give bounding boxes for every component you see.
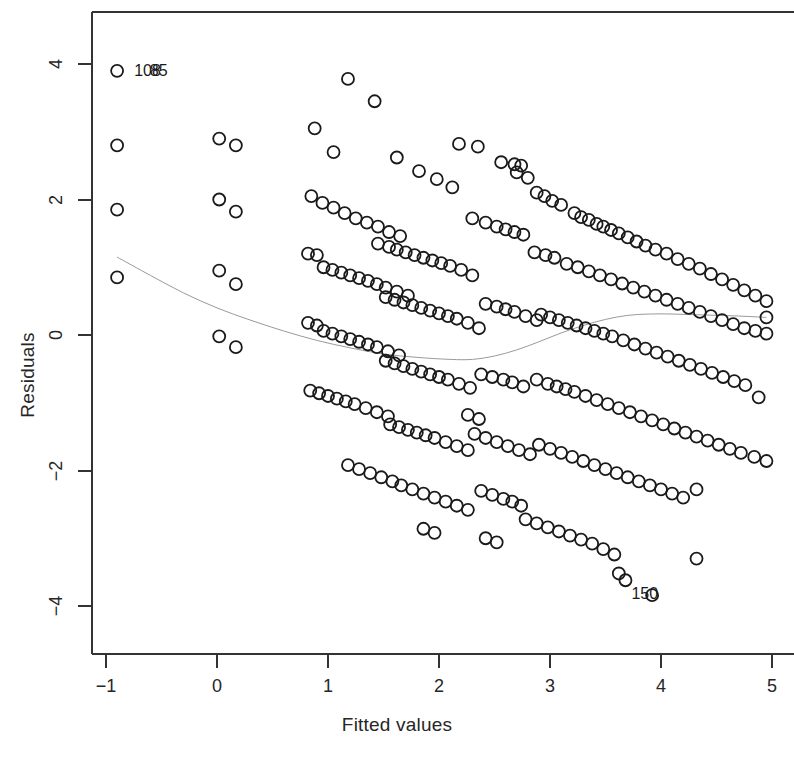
scatter-point	[672, 298, 684, 310]
scatter-point	[453, 378, 465, 390]
scatter-point	[695, 363, 707, 375]
scatter-point	[451, 500, 463, 512]
scatter-point	[342, 73, 354, 85]
scatter-point	[383, 226, 395, 238]
scatter-point	[619, 574, 631, 586]
scatter-point	[602, 398, 614, 410]
scatter-point	[524, 448, 536, 460]
scatter-point	[466, 212, 478, 224]
scatter-point	[480, 532, 492, 544]
scatter-points	[111, 65, 772, 601]
scatter-point	[677, 492, 689, 504]
scatter-point	[491, 436, 503, 448]
scatter-point	[553, 525, 565, 537]
scatter-point	[406, 483, 418, 495]
scatter-point	[728, 375, 740, 387]
scatter-point	[605, 273, 617, 285]
scatter-point	[705, 310, 717, 322]
scatter-point	[713, 439, 725, 451]
x-tick-label: 4	[656, 676, 666, 697]
scatter-point	[575, 534, 587, 546]
scatter-point	[749, 325, 761, 337]
scatter-point	[635, 410, 647, 422]
scatter-point	[531, 187, 543, 199]
scatter-point	[544, 443, 556, 455]
scatter-point	[679, 427, 691, 439]
scatter-point	[597, 543, 609, 555]
scatter-point	[566, 451, 578, 463]
scatter-point	[413, 165, 425, 177]
x-tick-label: −1	[96, 676, 117, 697]
scatter-point	[440, 436, 452, 448]
scatter-point	[528, 246, 540, 258]
scatter-point	[683, 258, 695, 270]
scatter-point	[391, 152, 403, 164]
scatter-point	[738, 322, 750, 334]
scatter-point	[446, 181, 458, 193]
scatter-point	[353, 463, 365, 475]
scatter-point	[577, 455, 589, 467]
scatter-point	[608, 549, 620, 561]
scatter-point	[724, 443, 736, 455]
scatter-point	[655, 483, 667, 495]
scatter-point	[613, 402, 625, 414]
scatter-point	[462, 444, 474, 456]
scatter-point	[417, 488, 429, 500]
scatter-point	[111, 65, 123, 77]
scatter-point	[633, 475, 645, 487]
scatter-point	[360, 402, 372, 414]
scatter-point	[486, 489, 498, 501]
scatter-point	[472, 141, 484, 153]
scatter-point	[475, 368, 487, 380]
scatter-point	[372, 221, 384, 233]
y-axis-title: Residuals	[17, 295, 39, 455]
scatter-point	[666, 488, 678, 500]
scatter-point	[594, 269, 606, 281]
scatter-point	[691, 553, 703, 565]
scatter-point	[371, 406, 383, 418]
scatter-point	[111, 271, 123, 283]
scatter-point	[486, 371, 498, 383]
scatter-point	[502, 440, 514, 452]
scatter-point	[375, 471, 387, 483]
scatter-point	[588, 459, 600, 471]
scatter-point	[517, 380, 529, 392]
scatter-point	[361, 217, 373, 229]
scatter-point	[342, 459, 354, 471]
x-tick-label: 3	[545, 676, 555, 697]
scatter-point	[453, 138, 465, 150]
scatter-point	[694, 263, 706, 275]
plot-canvas	[0, 0, 794, 759]
scatter-point	[213, 330, 225, 342]
scatter-point	[627, 282, 639, 294]
scatter-point	[328, 146, 340, 158]
outlier-label: 85	[150, 62, 168, 80]
scatter-point	[391, 286, 403, 298]
scatter-point	[513, 444, 525, 456]
scatter-point	[480, 298, 492, 310]
scatter-point	[600, 463, 612, 475]
scatter-point	[649, 290, 661, 302]
scatter-point	[748, 451, 760, 463]
scatter-point	[230, 139, 242, 151]
scatter-point	[305, 190, 317, 202]
x-tick-label: 1	[323, 676, 333, 697]
scatter-point	[649, 244, 661, 256]
scatter-point	[311, 249, 323, 261]
scatter-point	[735, 447, 747, 459]
scatter-point	[350, 212, 362, 224]
scatter-point	[464, 382, 476, 394]
scatter-point	[564, 530, 576, 542]
scatter-point	[339, 207, 351, 219]
x-tick-label: 0	[212, 676, 222, 697]
scatter-point	[651, 347, 663, 359]
scatter-point	[542, 521, 554, 533]
scatter-point	[462, 409, 474, 421]
scatter-point	[702, 435, 714, 447]
scatter-point	[591, 394, 603, 406]
scatter-point	[429, 527, 441, 539]
y-tick-label: 0	[46, 330, 67, 340]
scatter-point	[417, 523, 429, 535]
scatter-point	[617, 334, 629, 346]
scatter-point	[480, 217, 492, 229]
